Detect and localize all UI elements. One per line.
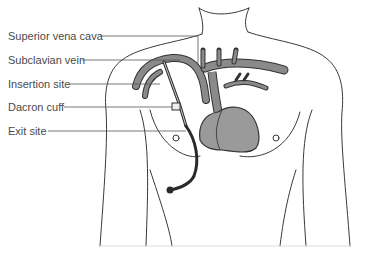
label-dacron-cuff: Dacron cuff	[8, 101, 64, 114]
catheter	[164, 62, 197, 194]
leader-lines	[48, 36, 198, 131]
dacron-cuff-marker	[172, 103, 180, 110]
label-superior-vena-cava: Superior vena cava	[8, 30, 103, 43]
heart	[200, 107, 259, 152]
label-subclavian-vein: Subclavian vein	[8, 54, 85, 67]
label-insertion-site: Insertion site	[8, 78, 70, 91]
label-exit-site: Exit site	[8, 125, 47, 138]
catheter-hub	[167, 187, 174, 194]
great-vessels	[136, 50, 284, 112]
